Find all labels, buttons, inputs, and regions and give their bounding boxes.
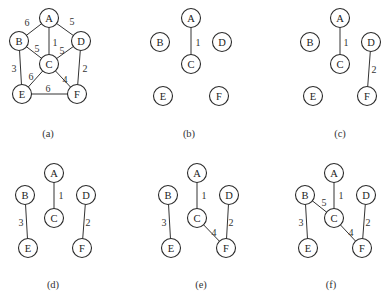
node-D: D [220,186,239,205]
edge-weight-label: 1 [202,190,207,201]
panel-caption: (f) [326,279,337,291]
node-D: D [362,33,381,52]
panel-caption: (a) [42,128,54,140]
node-A: A [331,9,350,28]
node-label: B [21,190,28,201]
node-label: F [79,243,85,254]
panel-caption: (c) [334,128,346,140]
node-E: E [299,239,318,258]
panel-d: 132ABCDEF(d) [16,164,96,291]
node-F: F [73,239,92,258]
edge-weight-label: 4 [63,74,68,85]
edge-weight-label: 2 [83,63,88,74]
node-label: A [336,13,344,24]
node-D: D [77,186,96,205]
node-label: B [156,37,163,48]
node-label: A [45,13,53,24]
edge-weight-label: 4 [349,227,354,238]
edge-weight-label: 1 [59,190,64,201]
node-E: E [304,87,323,106]
node-E: E [162,239,181,258]
edge-weight-label: 2 [86,217,91,228]
edge-weight-label: 1 [53,37,58,48]
node-F: F [210,87,229,106]
node-label: B [306,37,313,48]
panel-e: 1324ABCDEF(e) [159,164,239,291]
node-label: D [218,37,226,48]
node-label: F [216,91,222,102]
node-E: E [19,239,38,258]
edge-weight-label: 5 [70,16,75,27]
node-C: C [45,209,64,228]
node-label: C [330,213,337,224]
node-label: C [50,213,57,224]
node-label: B [164,190,171,201]
node-label: F [74,89,80,100]
panel-caption: (e) [195,279,207,291]
node-A: A [45,164,64,183]
edge-weight-label: 5 [322,197,327,208]
node-label: E [160,91,166,102]
node-A: A [182,9,201,28]
edge-weight-label: 1 [196,37,201,48]
figure-canvas: 6515532646ABCDEF(a)1ABCDEF(b)12ABCDEF(c)… [0,0,386,301]
edge-weight-label: 3 [19,217,24,228]
edge-weight-label: 5 [60,45,65,56]
node-B: B [151,33,170,52]
edge-weight-label: 3 [162,217,167,228]
node-label: D [77,36,85,47]
node-label: B [15,36,22,47]
node-label: A [193,168,201,179]
panel-caption: (d) [47,279,60,291]
edge-weight-label: 2 [372,64,377,75]
node-label: B [301,190,308,201]
node-C: C [40,55,59,74]
node-label: E [310,91,316,102]
node-label: E [25,243,31,254]
node-label: F [359,243,365,254]
edge-weight-label: 3 [299,217,304,228]
kruskal-mst-figure: 6515532646ABCDEF(a)1ABCDEF(b)12ABCDEF(c)… [0,0,386,301]
panel-caption: (b) [183,128,196,140]
panel-c: 12ABCDEF(c) [301,9,381,140]
node-label: F [223,243,229,254]
node-B: B [296,186,315,205]
edge-weight-label: 6 [46,83,51,94]
edge-weight-label: 6 [29,71,34,82]
node-label: C [336,59,343,70]
edge-weight-label: 2 [229,217,234,228]
node-label: D [82,190,90,201]
node-label: E [19,89,25,100]
edge-weight-label: 4 [212,227,217,238]
node-label: C [193,213,200,224]
panel-f: 15324ABCDEF(f) [296,164,376,291]
node-label: E [305,243,311,254]
node-B: B [16,186,35,205]
node-label: C [187,59,194,70]
node-F: F [68,85,87,104]
node-E: E [13,85,32,104]
node-label: A [50,168,58,179]
node-C: C [188,209,207,228]
node-C: C [331,55,350,74]
node-C: C [182,55,201,74]
node-D: D [357,186,376,205]
node-label: F [364,91,370,102]
node-B: B [301,33,320,52]
edge-weight-label: 1 [339,190,344,201]
panel-a: 6515532646ABCDEF(a) [10,9,91,140]
edge-weight-label: 1 [344,37,349,48]
node-label: A [187,13,195,24]
node-F: F [353,239,372,258]
node-label: C [45,59,52,70]
node-label: D [225,190,233,201]
node-D: D [72,32,91,51]
node-B: B [10,32,29,51]
node-C: C [325,209,344,228]
edge-weight-label: 6 [25,17,30,28]
node-D: D [213,33,232,52]
node-label: A [330,168,338,179]
node-A: A [40,9,59,28]
node-A: A [188,164,207,183]
node-E: E [154,87,173,106]
